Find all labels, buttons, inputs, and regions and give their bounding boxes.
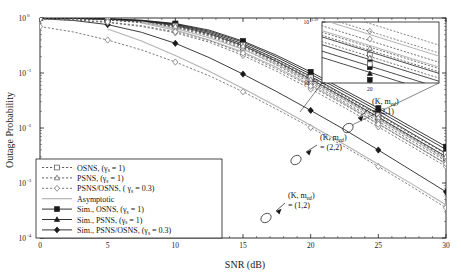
svg-text:-1.41: -1.41	[310, 79, 318, 83]
svg-text:10: 10	[19, 124, 27, 133]
svg-text:10: 10	[19, 14, 27, 23]
annotation-line-2: = (1,2)	[288, 201, 310, 210]
data-marker-square	[55, 165, 60, 170]
legend-label: Sim., PSNS, (γs = 1)	[77, 216, 143, 226]
svg-text:10: 10	[19, 234, 27, 243]
svg-text:10: 10	[304, 19, 310, 25]
svg-text:-4: -4	[27, 233, 32, 238]
x-tick-label: 30	[442, 241, 450, 250]
x-axis-label: SNR (dB)	[225, 259, 265, 271]
svg-text:-3: -3	[27, 178, 32, 183]
x-tick-label: 25	[375, 241, 383, 250]
annotation-line-2: = (2,1)	[372, 107, 394, 116]
legend-label: Asymptotic	[77, 195, 115, 204]
inset-x-tick-label: 20	[367, 86, 373, 92]
svg-text:10: 10	[19, 179, 27, 188]
data-marker-square	[368, 62, 373, 67]
x-tick-label: 15	[239, 241, 247, 250]
data-marker-square	[55, 207, 60, 212]
x-tick-label: 20	[307, 241, 315, 250]
legend-label: PSNS, (γs = 1)	[77, 174, 124, 184]
x-tick-label: 0	[38, 241, 42, 250]
svg-text:10: 10	[19, 69, 27, 78]
x-tick-label: 10	[172, 241, 180, 250]
chart-legend: OSNS, (γs = 1)PSNS, (γs = 1)PSNS/OSNS, (…	[36, 159, 222, 238]
legend-label: Sim., PSNS/OSNS, (γs = 0.3)	[77, 226, 172, 236]
chart-figure: 05101520253010010-110-210-310-4 SNR (dB)…	[0, 0, 461, 275]
svg-text:-1.39: -1.39	[310, 18, 318, 22]
y-axis-label: Outage Probability	[4, 92, 15, 168]
svg-text:10: 10	[304, 80, 310, 86]
legend-label: OSNS, (γs = 1)	[77, 164, 125, 174]
svg-text:-1: -1	[27, 68, 32, 73]
chart-svg: 05101520253010010-110-210-310-4 SNR (dB)…	[0, 0, 461, 275]
annotation-line-2: = (2,2)	[320, 143, 342, 152]
legend-label: Sim., OSNS, (γs = 1)	[77, 205, 144, 215]
legend-label: PSNS/OSNS, ( γs = 0.3)	[77, 184, 155, 194]
svg-text:-2: -2	[27, 123, 32, 128]
x-tick-label: 5	[106, 241, 110, 250]
